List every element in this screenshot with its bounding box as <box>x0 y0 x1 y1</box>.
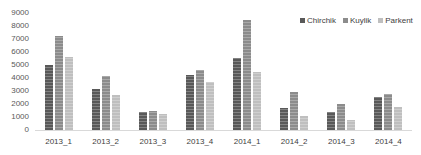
x-category-label: 2013_4 <box>180 137 220 146</box>
y-tick-label: 3000 <box>3 87 29 95</box>
y-tick-label: 0 <box>3 126 29 134</box>
x-category-label: 2013_3 <box>133 137 173 146</box>
y-tick-label: 4000 <box>3 74 29 82</box>
bar-chirchik-2013_4 <box>186 75 194 130</box>
legend-label: Parkent <box>385 16 413 25</box>
x-category-label: 2014_1 <box>227 137 267 146</box>
legend-swatch-icon <box>343 18 348 23</box>
y-tick-label: 8000 <box>3 22 29 30</box>
bar-chirchik-2014_1 <box>233 58 241 130</box>
legend-swatch-icon <box>300 18 305 23</box>
legend-item-kuylik: Kuylik <box>343 16 371 25</box>
legend-swatch-icon <box>378 18 383 23</box>
bar-kuylik-2014_2 <box>290 92 298 130</box>
bar-chirchik-2013_1 <box>45 65 53 130</box>
bar-kuylik-2013_3 <box>149 111 157 130</box>
x-category-label: 2014_4 <box>368 137 408 146</box>
y-tick-label: 6000 <box>3 48 29 56</box>
y-tick-label: 1000 <box>3 113 29 121</box>
bar-chirchik-2014_4 <box>374 97 382 130</box>
y-tick-label: 5000 <box>3 61 29 69</box>
bar-parkent-2013_1 <box>65 57 73 130</box>
bar-kuylik-2013_2 <box>102 76 110 130</box>
legend-label: Chirchik <box>307 16 336 25</box>
legend-item-chirchik: Chirchik <box>300 16 336 25</box>
bar-kuylik-2014_4 <box>384 94 392 130</box>
y-tick-label: 7000 <box>3 35 29 43</box>
bar-chirchik-2014_2 <box>280 108 288 130</box>
bar-parkent-2013_3 <box>159 114 167 130</box>
bar-kuylik-2013_1 <box>55 36 63 130</box>
legend: ChirchikKuylikParkent <box>300 16 413 25</box>
x-category-label: 2014_2 <box>274 137 314 146</box>
bar-parkent-2014_3 <box>347 120 355 130</box>
y-tick-label: 2000 <box>3 100 29 108</box>
x-category-label: 2013_1 <box>39 137 79 146</box>
x-axis-line <box>35 130 412 131</box>
x-category-label: 2014_3 <box>321 137 361 146</box>
bar-kuylik-2014_3 <box>337 104 345 130</box>
bar-parkent-2014_1 <box>253 72 261 130</box>
bar-parkent-2014_2 <box>300 116 308 130</box>
bar-parkent-2013_4 <box>206 82 214 130</box>
y-tick-label: 9000 <box>3 9 29 17</box>
x-category-label: 2013_2 <box>86 137 126 146</box>
bar-chirchik-2013_2 <box>92 89 100 130</box>
bar-parkent-2013_2 <box>112 95 120 130</box>
bar-kuylik-2014_1 <box>243 20 251 130</box>
bar-parkent-2014_4 <box>394 107 402 130</box>
bar-kuylik-2013_4 <box>196 70 204 130</box>
bar-chirchik-2014_3 <box>327 112 335 130</box>
grouped-bar-chart: 0100020003000400050006000700080009000 20… <box>0 0 421 155</box>
legend-label: Kuylik <box>350 16 371 25</box>
legend-item-parkent: Parkent <box>378 16 413 25</box>
bar-chirchik-2013_3 <box>139 112 147 130</box>
